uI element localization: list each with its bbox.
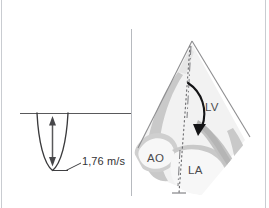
echocardiography-figure: 1,76 m/s (0, 0, 269, 208)
label-left-ventricle: LV (205, 101, 219, 113)
label-left-atrium: LA (188, 164, 203, 176)
anatomy-graphic (0, 0, 269, 208)
label-aorta: AO (147, 152, 164, 164)
